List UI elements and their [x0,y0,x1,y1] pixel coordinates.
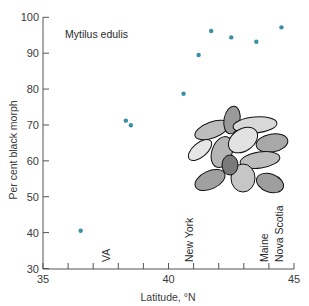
data-point [124,118,128,122]
y-tick-label: 100 [21,11,39,23]
data-point [78,229,82,233]
data-point [196,53,200,57]
x-tick-label: 35 [37,273,49,285]
y-tick-label: 70 [27,119,39,131]
x-tick-label: 45 [288,273,300,285]
data-point [254,40,258,44]
x-axis-title: Latitude, °N [141,291,196,303]
y-tick-label: 50 [27,191,39,203]
data-point [279,25,283,29]
y-tick-label: 80 [27,83,39,95]
location-label: VA [100,249,112,262]
x-ticks: 354045 [37,263,300,285]
y-axis-title: Per cent black morph [7,100,19,199]
data-point [229,35,233,39]
scatter-chart: 30405060708090100 354045 Mytilus edulis … [0,0,309,306]
y-tick-label: 60 [27,155,39,167]
data-point [129,123,133,127]
x-tick-label: 40 [162,273,174,285]
data-point [209,29,213,33]
location-annotations: VANew YorkMaineNova Scotia [100,205,285,262]
chart-title: Mytilus edulis [65,28,128,40]
y-tick-label: 40 [27,227,39,239]
y-tick-label: 90 [27,47,39,59]
y-ticks: 30405060708090100 [21,11,49,274]
mussel-cluster-illustration [185,105,290,196]
location-label: New York [183,217,195,262]
location-label: Maine [258,233,270,262]
location-label: Nova Scotia [273,205,285,262]
data-point [181,92,185,96]
